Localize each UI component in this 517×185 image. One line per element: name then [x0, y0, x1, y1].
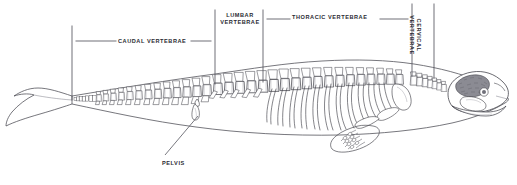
pelvis-leader-line — [165, 116, 198, 155]
label-caudal-vertebrae: CAUDAL VERTEBRAE — [118, 38, 186, 45]
label-pelvis: PELVIS — [162, 160, 185, 167]
label-thoracic-vertebrae: THORACIC VERTEBRAE — [292, 14, 367, 21]
label-cervical-vertebrae: CERVICAL VERTEBRAE — [408, 8, 422, 62]
lumbar-vertebrae — [209, 71, 268, 99]
cervical-vertebrae — [410, 72, 447, 92]
scapula — [392, 84, 411, 110]
caudal-vertebrae — [74, 77, 212, 105]
thoracic-vertebrae — [268, 67, 404, 91]
label-lumbar-vertebrae: LUMBAR VERTEBRAE — [216, 12, 264, 27]
label-lumbar-line1: LUMBAR — [226, 12, 254, 18]
label-cervical-line2: VERTEBRAE — [409, 15, 415, 54]
label-cervical-line1: CERVICAL — [416, 19, 422, 52]
skeleton-illustration — [0, 0, 517, 185]
label-lumbar-line2: VERTEBRAE — [220, 19, 259, 25]
tail-fluke — [6, 88, 72, 126]
whale-skeleton-figure: CAUDAL VERTEBRAE LUMBAR VERTEBRAE THORAC… — [0, 0, 517, 185]
